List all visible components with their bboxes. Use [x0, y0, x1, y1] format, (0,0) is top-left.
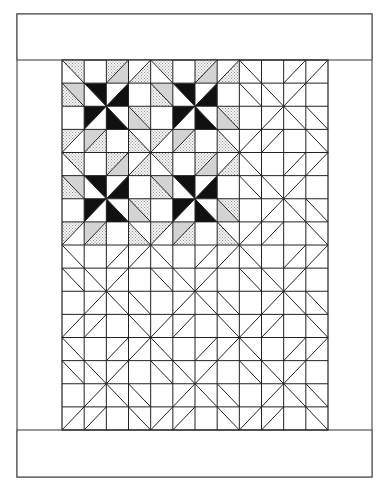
bottom-border-band — [17, 430, 372, 477]
top-border-band — [17, 14, 372, 60]
quilt-diagram — [0, 0, 389, 494]
